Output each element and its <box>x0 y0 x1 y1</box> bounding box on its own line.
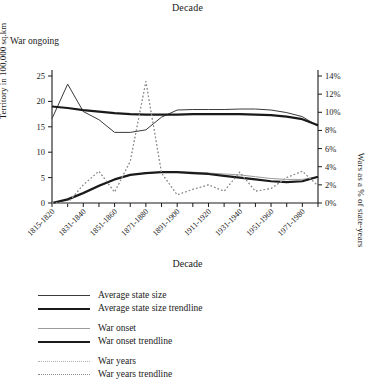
x-tick-label: 1851-1860 <box>88 207 119 238</box>
right-tick-label: 0% <box>325 198 336 208</box>
legend-item[interactable]: War onset <box>38 321 203 334</box>
x-tick-label: 1911-1920 <box>182 207 213 238</box>
right-tick-label: 10% <box>325 107 341 117</box>
series-line <box>52 172 318 203</box>
war-ongoing-annotation: War ongoing <box>10 36 59 46</box>
x-tick-label: 1831-1840 <box>57 207 88 238</box>
x-tick-label: 1871-1880 <box>119 207 150 238</box>
legend-item[interactable]: War onset trendline <box>38 334 203 347</box>
left-tick-label: 20 <box>37 96 46 106</box>
legend-item[interactable]: War years <box>38 354 203 367</box>
legend-item[interactable]: Average state size <box>38 288 203 301</box>
legend-swatch-thick-solid <box>38 336 90 346</box>
line-chart-svg: 05101520250%2%4%6%8%10%12%14%1815-182018… <box>0 60 375 250</box>
legend-swatch-dotted-light <box>38 356 90 366</box>
legend-group: War onsetWar onset trendline <box>38 321 203 347</box>
left-tick-label: 10 <box>37 147 46 157</box>
chart-area: Territory in 100,000 sq.km Wars as a % o… <box>0 60 375 250</box>
legend-swatch-thin-solid <box>38 290 90 300</box>
left-tick-label: 5 <box>41 173 45 183</box>
left-axis-label: Territory in 100,000 sq.km <box>0 6 8 136</box>
legend-label: War years <box>98 356 136 366</box>
chart-legend: Average state sizeAverage state size tre… <box>38 288 203 386</box>
legend-label: Average state size trendline <box>98 303 203 313</box>
legend-swatch-thick-solid <box>38 303 90 313</box>
legend-group: Average state sizeAverage state size tre… <box>38 288 203 314</box>
series-line <box>52 81 318 203</box>
x-tick-label: 1971-1980 <box>276 207 307 238</box>
x-tick-label: 1891-1900 <box>151 207 182 238</box>
legend-swatch-dotted <box>38 369 90 379</box>
right-tick-label: 2% <box>325 180 336 190</box>
legend-item[interactable]: Average state size trendline <box>38 301 203 314</box>
series-line <box>52 172 318 203</box>
legend-label: War years trendline <box>98 369 172 379</box>
right-tick-label: 14% <box>325 71 341 81</box>
x-tick-label: 1951-1960 <box>245 207 276 238</box>
left-tick-label: 15 <box>37 122 46 132</box>
legend-label: War onset <box>98 323 136 333</box>
legend-swatch-thin-solid-light <box>38 323 90 333</box>
x-tick-label: 1815-1820 <box>26 207 57 238</box>
left-tick-label: 25 <box>37 71 46 81</box>
right-tick-label: 4% <box>325 162 336 172</box>
right-tick-label: 12% <box>325 89 341 99</box>
right-axis-label: Wars as a % of state-years <box>356 136 366 264</box>
right-tick-label: 6% <box>325 144 336 154</box>
legend-label: Average state size <box>98 290 166 300</box>
top-axis-title: Decade <box>0 2 375 13</box>
x-tick-label: 1931-1940 <box>213 207 244 238</box>
legend-label: War onset trendline <box>98 336 172 346</box>
series-line <box>52 81 318 203</box>
series-line <box>52 84 318 132</box>
left-tick-label: 0 <box>41 198 45 208</box>
legend-group: War yearsWar years trendline <box>38 354 203 380</box>
right-tick-label: 8% <box>325 125 336 135</box>
x-axis-title: Decade <box>0 258 375 269</box>
legend-item[interactable]: War years trendline <box>38 367 203 380</box>
